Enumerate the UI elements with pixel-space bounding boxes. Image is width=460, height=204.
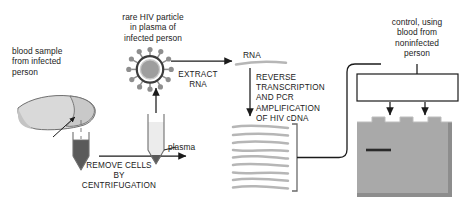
- gel-electrophoresis-box[interactable]: [357, 74, 458, 101]
- fingertip-icon: [18, 96, 95, 138]
- diagram-canvas: blood sample from infected person rare H…: [0, 0, 460, 204]
- gel-slab-icon: [357, 117, 452, 197]
- hiv-virion-icon: [126, 47, 174, 92]
- rna-strand-icon: [236, 62, 286, 65]
- cdna-strands-icon: [233, 126, 288, 189]
- plasma-leader-line: [164, 147, 176, 150]
- diagram-artwork: [0, 0, 460, 204]
- cdna-bracket: [292, 124, 297, 191]
